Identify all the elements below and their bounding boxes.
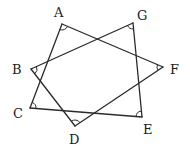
vertex-label-d: D bbox=[69, 132, 79, 147]
edge-af bbox=[62, 24, 163, 67]
vertex-label-c: C bbox=[13, 106, 23, 121]
star-edges bbox=[30, 23, 163, 126]
vertex-label-g: G bbox=[137, 8, 147, 23]
heptagram-diagram: ABCDEFG bbox=[0, 0, 190, 148]
angle-mark-e bbox=[136, 111, 141, 116]
edge-bd bbox=[31, 69, 75, 126]
edge-eg bbox=[133, 23, 142, 117]
vertex-label-a: A bbox=[53, 5, 64, 20]
edge-df bbox=[75, 67, 163, 126]
edge-bg bbox=[31, 23, 133, 69]
vertex-label-e: E bbox=[143, 122, 153, 137]
edge-ac bbox=[30, 24, 62, 108]
edge-ce bbox=[30, 108, 142, 117]
vertex-label-f: F bbox=[170, 62, 179, 77]
vertex-label-b: B bbox=[12, 62, 22, 77]
